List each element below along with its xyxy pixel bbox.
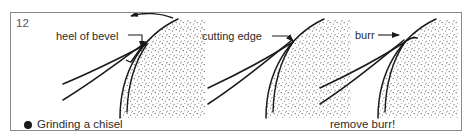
panel-1-heel-line (126, 60, 131, 62)
bullet-dot-icon (24, 121, 32, 129)
figure-root: 12 heel of bevel cutting edge burr Grind… (0, 0, 474, 139)
panel-1-rotation-arrow (131, 14, 173, 18)
panel-2-abrasive-stipple (266, 20, 351, 118)
caption-remove-burr: remove burr! (330, 119, 395, 131)
label-burr: burr (355, 30, 375, 41)
label-heel-of-bevel: heel of bevel (56, 31, 118, 42)
label-cutting-edge: cutting edge (202, 31, 262, 42)
plate-number: 12 (16, 18, 29, 30)
panel-2-leader-line (272, 36, 293, 41)
caption-grinding-a-chisel: Grinding a chisel (37, 119, 123, 131)
